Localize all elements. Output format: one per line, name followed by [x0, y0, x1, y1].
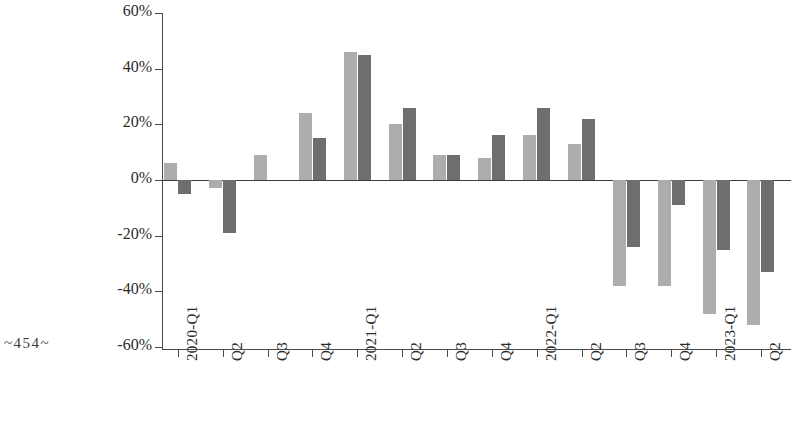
bar-series-b-Q4 [672, 180, 685, 205]
x-axis-tick-label: Q2 [588, 342, 605, 361]
x-axis-tick-label: Q4 [318, 342, 335, 361]
bar-series-a-Q4 [299, 113, 312, 180]
x-axis-tick-mark [268, 350, 269, 357]
x-axis-tick-mark [312, 350, 313, 357]
bar-series-a-2021-Q1 [344, 52, 357, 180]
y-axis-tick-label: 0% [90, 169, 152, 187]
bar-series-a-Q3 [613, 180, 626, 286]
x-axis-tick-label: Q2 [408, 342, 425, 361]
bar-series-a-Q3 [254, 155, 267, 180]
x-axis-tick-mark [537, 350, 538, 357]
bar-series-a-Q2 [209, 180, 222, 188]
bar-series-a-Q4 [658, 180, 671, 286]
y-axis-tick-mark [155, 180, 163, 181]
bar-series-b-2021-Q1 [358, 55, 371, 180]
bar-series-a-Q2 [568, 144, 581, 180]
x-axis-tick-label: Q2 [229, 342, 246, 361]
bar-series-a-Q3 [433, 155, 446, 180]
bar-series-a-2023-Q1 [703, 180, 716, 314]
y-axis-tick-mark [155, 69, 163, 70]
x-axis-tick-mark [223, 350, 224, 357]
y-axis-tick-label: 20% [90, 113, 152, 131]
bar-series-b-Q4 [313, 138, 326, 180]
x-axis-tick-label: Q3 [274, 342, 291, 361]
bar-series-b-Q2 [403, 108, 416, 180]
x-axis-tick-label: 2023-Q1 [722, 306, 739, 361]
x-axis-line [162, 349, 791, 350]
x-axis-tick-label: Q3 [453, 342, 470, 361]
y-axis-tick-label-group: 60%40%20%0%-20%-40%-60% [84, 0, 152, 360]
y-axis-tick-label: 40% [90, 58, 152, 76]
bar-series-b-Q4 [492, 135, 505, 180]
x-axis-tick-label: Q3 [632, 342, 649, 361]
x-axis-tick-label: 2020-Q1 [184, 306, 201, 361]
bar-series-b-Q3 [447, 155, 460, 180]
x-axis-tick-label: 2022-Q1 [543, 306, 560, 361]
y-axis-tick-label: -40% [90, 280, 152, 298]
bar-series-b-Q2 [761, 180, 774, 272]
bar-series-b-2022-Q1 [537, 108, 550, 180]
bar-series-b-Q3 [627, 180, 640, 247]
y-axis-tick-mark [155, 236, 163, 237]
bar-series-b-2023-Q1 [717, 180, 730, 250]
x-axis-tick-mark [447, 350, 448, 357]
bar-series-a-Q2 [389, 124, 402, 180]
bar-series-b-2020-Q1 [178, 180, 191, 194]
y-axis-tick-mark [155, 291, 163, 292]
x-axis-tick-mark [716, 350, 717, 357]
y-axis-tick-label: -20% [90, 225, 152, 243]
x-axis-tick-mark [582, 350, 583, 357]
x-axis-tick-label: Q4 [677, 342, 694, 361]
bar-series-a-Q4 [478, 158, 491, 180]
x-axis-tick-label: Q2 [767, 342, 784, 361]
y-axis-tick-label: 60% [90, 2, 152, 20]
plot-area [163, 15, 791, 349]
x-axis-tick-mark [761, 350, 762, 357]
x-axis-tick-label: 2021-Q1 [363, 306, 380, 361]
y-axis-tick-mark [155, 13, 163, 14]
bar-series-a-2022-Q1 [523, 135, 536, 180]
x-axis-tick-mark [492, 350, 493, 357]
y-axis-tick-mark [155, 124, 163, 125]
bar-chart-figure: 60%40%20%0%-20%-40%-60% 2020-Q1Q2Q3Q4202… [0, 0, 793, 427]
bar-series-a-Q2 [747, 180, 760, 325]
y-axis-tick-mark [155, 347, 163, 348]
y-axis-tick-label: -60% [90, 336, 152, 354]
bar-series-a-2020-Q1 [164, 163, 177, 180]
x-axis-tick-mark [178, 350, 179, 357]
x-axis-tick-mark [671, 350, 672, 357]
x-axis-tick-mark [357, 350, 358, 357]
x-axis-tick-label: Q4 [498, 342, 515, 361]
x-axis-tick-mark [402, 350, 403, 357]
bar-series-b-Q2 [582, 119, 595, 180]
x-axis-tick-mark [626, 350, 627, 357]
bar-series-b-Q2 [223, 180, 236, 233]
